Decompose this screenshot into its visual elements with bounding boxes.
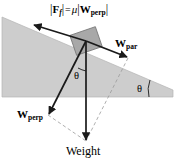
w-perp-label: Wperp (17, 105, 43, 122)
formula-equals: = (64, 4, 72, 15)
formula-bar-close-2: | (106, 2, 108, 16)
w-par-subscript: par (126, 42, 137, 51)
formula-weight-symbol: W (80, 3, 91, 15)
w-par-label: Wpar (115, 34, 137, 51)
formula-weight-subscript: perp (91, 8, 106, 17)
w-perp-symbol: W (17, 108, 28, 120)
theta-weight-label: θ (74, 70, 79, 81)
theta-incline-label: θ (137, 83, 142, 94)
weight-label: Weight (66, 145, 100, 157)
dashed-wperp-to-weight (48, 115, 86, 141)
friction-formula-label: |Ff|=μ|Wperp| (50, 3, 108, 17)
w-perp-subscript: perp (28, 113, 43, 122)
w-par-symbol: W (115, 37, 126, 49)
inclined-plane-diagram: |Ff|=μ|Wperp| Wpar Wperp Weight θ θ (0, 0, 180, 162)
diagram-canvas (0, 0, 180, 162)
